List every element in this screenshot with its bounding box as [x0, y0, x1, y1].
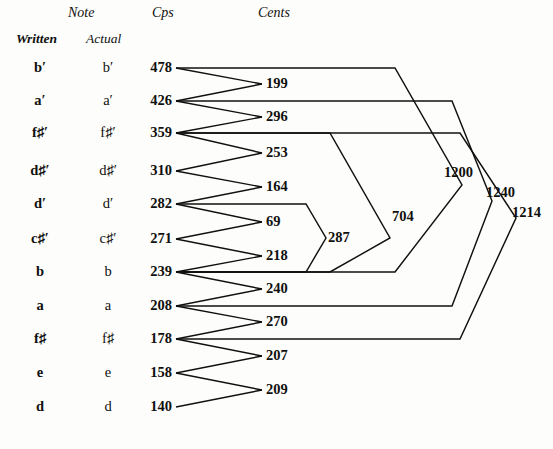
note-written: d♯′	[10, 163, 70, 178]
note-written: c♯′	[10, 231, 70, 246]
note-written: a	[10, 298, 70, 313]
span-cents-value: 1200	[444, 165, 473, 180]
interval-cents-value: 253	[266, 145, 288, 160]
interval-cents-value: 207	[266, 348, 288, 363]
interval-cents-value: 164	[266, 179, 288, 194]
cps-value: 239	[110, 264, 172, 279]
span-cents-value: 1240	[486, 185, 515, 200]
note-written: d′	[10, 196, 70, 211]
cps-value: 271	[110, 231, 172, 246]
interval-cents-value: 296	[266, 109, 288, 124]
interval-cents-value: 270	[266, 314, 288, 329]
interval-cents-value: 209	[266, 382, 288, 397]
interval-cents-value: 218	[266, 248, 288, 263]
note-written: f♯′	[10, 125, 70, 140]
cps-value: 208	[110, 298, 172, 313]
interval-cents-value: 69	[266, 214, 281, 229]
span-cents-value: 704	[392, 209, 414, 224]
note-written: a′	[10, 93, 70, 108]
cps-value: 478	[110, 60, 172, 75]
note-written: e	[10, 365, 70, 380]
interval-cents-value: 240	[266, 281, 288, 296]
interval-cents-value: 199	[266, 76, 288, 91]
note-written: b′	[10, 60, 70, 75]
cps-value: 158	[110, 365, 172, 380]
cps-value: 140	[110, 399, 172, 414]
cps-value: 282	[110, 196, 172, 211]
span-cents-value: 287	[328, 230, 350, 245]
cps-value: 310	[110, 163, 172, 178]
note-written: f♯	[10, 331, 70, 346]
span-cents-value: 1214	[512, 205, 541, 220]
cps-value: 426	[110, 93, 172, 108]
note-written: d	[10, 399, 70, 414]
cps-value: 359	[110, 125, 172, 140]
cps-value: 178	[110, 331, 172, 346]
figure-canvas: Note Written Actual Cps Cents	[0, 0, 553, 449]
note-written: b	[10, 264, 70, 279]
